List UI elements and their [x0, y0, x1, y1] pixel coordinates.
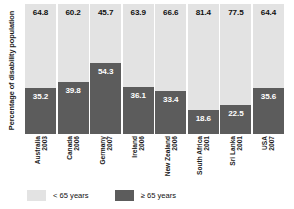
bar-segment-over-65: 54.3: [90, 63, 121, 134]
x-tick-year: 2006: [73, 136, 80, 160]
x-tick-country: Germany: [98, 136, 105, 165]
x-tick-year: 2003: [41, 136, 48, 164]
bar-column: 64.435.6: [253, 4, 284, 134]
x-tick-label: Australia2003: [33, 136, 47, 164]
bar-segment-over-65: 39.8: [58, 82, 89, 134]
bar-segment-under-65: 66.6: [155, 4, 186, 91]
bar-value-under-65: 64.8: [33, 8, 48, 17]
bar-value-over-65: 18.6: [196, 114, 211, 123]
bar-column: 81.418.6: [188, 4, 219, 134]
chart-legend: < 65 years ≥ 65 years: [27, 188, 176, 202]
x-tick-year: 2001: [203, 136, 210, 175]
bar-segment-over-65: 22.5: [220, 105, 251, 134]
x-tick-year: 2007: [106, 136, 113, 165]
x-tick-year: 2001: [236, 136, 243, 166]
legend-item-over-65: ≥ 65 years: [115, 190, 176, 201]
bar-value-under-65: 63.9: [131, 8, 146, 17]
bar-column: 45.754.3: [90, 4, 121, 134]
bar-value-under-65: 60.2: [65, 8, 80, 17]
bar-segment-under-65: 63.9: [123, 4, 154, 87]
x-tick-column: Australia2003: [25, 136, 56, 180]
legend-swatch-over-65: [115, 190, 134, 201]
plot-area: 64.835.260.239.845.754.363.936.166.633.4…: [25, 4, 284, 134]
x-tick-column: New Zealand2006: [155, 136, 186, 180]
bar-segment-under-65: 45.7: [90, 4, 121, 63]
bar-segment-under-65: 60.2: [58, 4, 89, 82]
bar-column: 64.835.2: [25, 4, 56, 134]
bar-segment-over-65: 35.6: [253, 88, 284, 134]
x-tick-label: Canada2006: [66, 136, 80, 160]
x-tick-label: Sri Lanka2001: [229, 136, 243, 166]
x-tick-column: Canada2006: [58, 136, 89, 180]
bar-value-over-65: 39.8: [65, 86, 80, 95]
bar-value-under-65: 81.4: [196, 8, 211, 17]
bar-segment-under-65: 64.8: [25, 4, 56, 88]
bar-value-under-65: 77.5: [228, 8, 243, 17]
x-tick-column: South Africa2001: [188, 136, 219, 180]
bar-value-over-65: 33.4: [163, 95, 178, 104]
x-tick-label: Germany2007: [98, 136, 112, 165]
bar-value-over-65: 36.1: [131, 91, 146, 100]
bar-value-over-65: 54.3: [98, 67, 113, 76]
bar-segment-under-65: 77.5: [220, 4, 251, 105]
bar-value-over-65: 35.6: [261, 92, 276, 101]
bar-segment-over-65: 36.1: [123, 87, 154, 134]
bar-segment-over-65: 35.2: [25, 88, 56, 134]
bar-column: 60.239.8: [58, 4, 89, 134]
bar-segment-over-65: 33.4: [155, 91, 186, 134]
legend-spacer: [89, 195, 115, 196]
chart-figure: Percentage of disability population 64.8…: [0, 0, 294, 209]
bar-column: 63.936.1: [123, 4, 154, 134]
x-tick-label: New Zealand2006: [164, 136, 178, 176]
bar-column: 77.522.5: [220, 4, 251, 134]
x-axis-tick-labels: Australia2003Canada2006Germany2007Irelan…: [25, 136, 284, 180]
x-tick-country: Sri Lanka: [229, 136, 236, 166]
x-tick-country: Canada: [66, 136, 73, 160]
bar-segment-over-65: 18.6: [188, 110, 219, 134]
legend-label-under-65: < 65 years: [53, 191, 89, 200]
legend-item-under-65: < 65 years: [27, 190, 89, 201]
y-axis-label-container: Percentage of disability population: [0, 0, 24, 140]
x-tick-country: Ireland: [131, 136, 138, 158]
x-tick-year: 2006: [138, 136, 145, 158]
x-tick-column: Sri Lanka2001: [220, 136, 251, 180]
bar-value-under-65: 64.4: [261, 8, 276, 17]
bar-value-under-65: 45.7: [98, 8, 113, 17]
bar-segment-under-65: 81.4: [188, 4, 219, 110]
x-tick-year: 2006: [171, 136, 178, 176]
x-tick-column: Germany2007: [90, 136, 121, 180]
x-tick-label: Ireland2006: [131, 136, 145, 158]
x-tick-country: New Zealand: [164, 136, 171, 176]
bar-value-under-65: 66.6: [163, 8, 178, 17]
bar-value-over-65: 35.2: [33, 92, 48, 101]
legend-label-over-65: ≥ 65 years: [141, 191, 176, 200]
x-tick-column: USA2007: [253, 136, 284, 180]
bar-column: 66.633.4: [155, 4, 186, 134]
legend-swatch-under-65: [27, 190, 46, 201]
x-tick-country: Australia: [33, 136, 40, 164]
x-tick-year: 2007: [268, 136, 275, 151]
x-tick-label: USA2007: [261, 136, 275, 151]
y-axis-label: Percentage of disability population: [8, 10, 17, 129]
bar-value-over-65: 22.5: [228, 109, 243, 118]
x-tick-label: South Africa2001: [196, 136, 210, 175]
x-tick-column: Ireland2006: [123, 136, 154, 180]
bar-segment-under-65: 64.4: [253, 4, 284, 88]
